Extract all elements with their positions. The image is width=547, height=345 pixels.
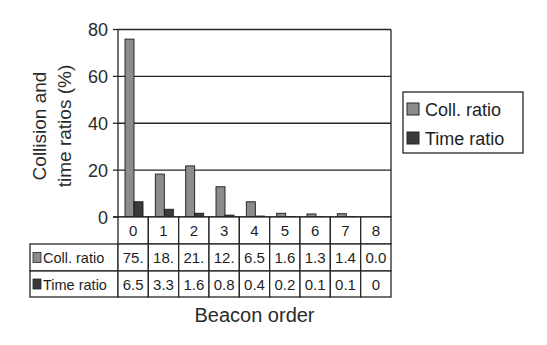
legend-swatch-time-ratio [407, 132, 419, 144]
bar-chart: Collision and time ratios (%) 020406080 … [0, 0, 547, 345]
category-label: 2 [190, 222, 198, 239]
legend: Coll. ratio Time ratio [403, 92, 523, 153]
table-row-swatch [33, 279, 41, 289]
table-row-label: Coll. ratio [43, 250, 104, 266]
table-cell-value: 6.5 [244, 249, 265, 266]
table-cell-value: 6.5 [123, 276, 144, 293]
category-label: 1 [159, 222, 167, 239]
y-tick-label: 0 [98, 208, 108, 228]
category-label: 8 [372, 222, 380, 239]
y-tick-label: 80 [88, 20, 108, 40]
y-axis-title-line-2: time ratios (%) [54, 65, 75, 187]
table-cell-value: 3.3 [153, 276, 174, 293]
bar-coll-ratio-0 [125, 39, 134, 217]
legend-swatch-coll-ratio [407, 103, 419, 115]
bar-coll-ratio-2 [186, 166, 195, 217]
table-cell-value: 0.8 [214, 276, 235, 293]
bar-time-ratio-0 [134, 202, 143, 217]
legend-label-time-ratio: Time ratio [425, 129, 504, 149]
table-cell-value: 0.1 [305, 276, 326, 293]
y-axis-title-line-1: Collision and [29, 72, 50, 181]
category-label: 5 [281, 222, 289, 239]
table-row-label: Time ratio [43, 277, 107, 293]
y-tick-label: 40 [88, 114, 108, 134]
table-cell-value: 1.6 [274, 249, 295, 266]
table-cell-value: 0.2 [274, 276, 295, 293]
table-cell-value: 0.4 [244, 276, 265, 293]
table-cell-value: 1.6 [183, 276, 204, 293]
category-label: 4 [250, 222, 258, 239]
table-cell-value: 1.4 [335, 249, 356, 266]
table-row-swatch [33, 253, 41, 263]
category-label: 0 [129, 222, 137, 239]
table-cell-value: 75. [123, 249, 144, 266]
table-cell-value: 0 [372, 276, 380, 293]
category-label: 6 [311, 222, 319, 239]
category-label: 7 [341, 222, 349, 239]
x-axis-title: Beacon order [194, 304, 314, 326]
bar-coll-ratio-3 [216, 187, 225, 217]
table-cell-value: 0.0 [365, 249, 386, 266]
y-tick-label: 20 [88, 161, 108, 181]
table-cell-value: 21. [183, 249, 204, 266]
bar-coll-ratio-4 [246, 202, 255, 217]
legend-label-coll-ratio: Coll. ratio [425, 100, 501, 120]
table-cell-value: 12. [214, 249, 235, 266]
bar-time-ratio-1 [164, 209, 173, 217]
y-tick-label: 60 [88, 67, 108, 87]
bar-coll-ratio-1 [155, 174, 164, 217]
table-cell-value: 0.1 [335, 276, 356, 293]
category-label: 3 [220, 222, 228, 239]
table-cell-value: 1.3 [305, 249, 326, 266]
table-cell-value: 18. [153, 249, 174, 266]
